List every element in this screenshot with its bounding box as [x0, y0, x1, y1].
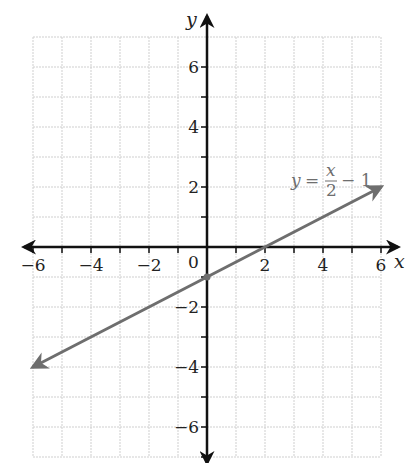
coordinate-plane: −6−4−2246642−2−4−6 y x 0 y = x 2 − 1: [0, 0, 406, 463]
y-intercept-point: [204, 274, 211, 281]
origin-label: 0: [188, 252, 199, 272]
axes: [24, 16, 398, 463]
y-axis-label: y: [185, 8, 197, 30]
equation-numerator: x: [326, 160, 336, 180]
equation-label: y = x 2 − 1: [290, 160, 371, 200]
x-tick-label: 2: [260, 255, 271, 275]
x-tick-label: −6: [20, 255, 45, 275]
x-tick-label: 4: [318, 255, 329, 275]
equation-tail: − 1: [341, 170, 371, 190]
x-axis-label: x: [394, 250, 405, 272]
y-tick-label: −2: [174, 297, 199, 317]
x-tick-label: −2: [136, 255, 161, 275]
equation-denominator: 2: [326, 180, 337, 200]
equation-equals: =: [305, 170, 319, 190]
y-tick-label: 6: [188, 57, 199, 77]
x-tick-label: −4: [78, 255, 103, 275]
x-tick-label: 6: [376, 255, 387, 275]
equation-y: y: [290, 170, 301, 190]
y-tick-label: −6: [174, 417, 199, 437]
y-tick-label: 2: [188, 177, 199, 197]
y-tick-label: −4: [174, 357, 199, 377]
y-tick-label: 4: [188, 117, 199, 137]
